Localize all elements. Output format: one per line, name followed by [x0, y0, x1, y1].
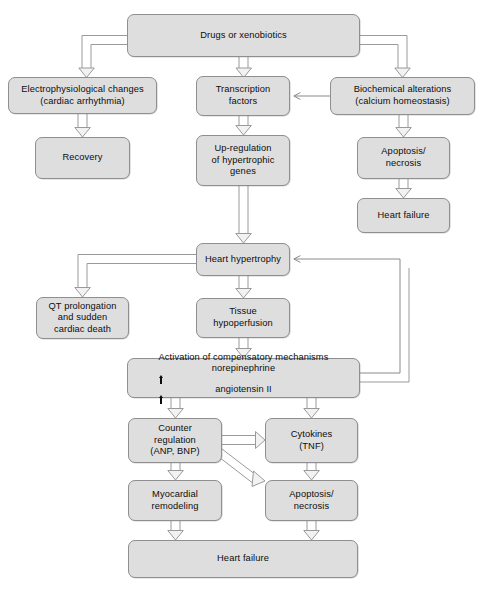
node-label-line2: necrosis — [377, 158, 429, 170]
activation-label-norepinephrine: norepinephrine — [159, 363, 329, 375]
node-label-line2: factors — [212, 96, 275, 108]
node-label-line1: Electrophysiological changes — [17, 84, 148, 96]
flowchart-canvas: Drugs or xenobiotics Electrophysiologica… — [0, 0, 489, 592]
node-label-line3: (ANP, BNP) — [146, 446, 203, 458]
node-label: Heart hypertrophy — [201, 254, 285, 266]
node-label-line2: hypoperfusion — [209, 318, 277, 330]
connector-electrophysiological-to-recovery — [75, 114, 91, 137]
connector-counter-to-myocardial — [168, 463, 184, 480]
node-label-line1: Cytokines — [287, 429, 337, 441]
node-label-line1: Activation of compensatory mechanisms — [155, 352, 333, 364]
node-transcription-factors[interactable]: Transcription factors — [196, 76, 290, 116]
node-apoptosis-necrosis-top[interactable]: Apoptosis/ necrosis — [357, 137, 450, 179]
node-label-line3: genes — [208, 166, 279, 178]
connector-drugs-to-biochemical — [360, 36, 410, 78]
connector-biochemical-to-apoptosis — [396, 115, 412, 137]
node-label: Recovery — [58, 152, 106, 164]
node-label: Heart failure — [374, 210, 434, 222]
node-label-line2: necrosis — [285, 501, 337, 513]
increase-arrow-icon — [159, 375, 172, 384]
connector-counter-to-cytokines — [222, 432, 265, 449]
node-label-line1: Transcription — [212, 84, 275, 96]
node-label-line2: of hypertrophic — [208, 155, 279, 167]
node-label-line2: (TNF) — [287, 441, 337, 453]
node-label-line1: QT prolongation — [45, 301, 121, 313]
node-label-line2: and sudden — [45, 312, 121, 324]
increase-arrow-icon — [159, 395, 172, 404]
node-label-line1: Myocardial — [148, 489, 203, 501]
node-label-line1: Tissue — [209, 306, 277, 318]
node-label-line2: regulation — [146, 435, 203, 447]
node-heart-failure-top[interactable]: Heart failure — [357, 198, 450, 233]
node-label-line2: remodeling — [148, 501, 203, 513]
node-qt-prolongation-sudden-cardiac-death[interactable]: QT prolongation and sudden cardiac death — [36, 297, 129, 339]
node-label-line1: Counter — [146, 423, 203, 435]
node-label-line2: (cardiac arrhythmia) — [17, 96, 148, 108]
connector-hypertrophy-to-tissue — [236, 276, 252, 298]
node-label-line3: cardiac death — [45, 324, 121, 336]
activation-label-angiotensin: angiotensin II — [159, 384, 329, 396]
connector-upregulation-to-hypertrophy — [236, 186, 252, 243]
node-label-line1: Up-regulation — [208, 143, 279, 155]
node-myocardial-remodeling[interactable]: Myocardial remodeling — [128, 480, 222, 521]
connector-cytokines-to-apoptosis — [304, 463, 320, 480]
node-up-regulation-of-hypertrophic-genes[interactable]: Up-regulation of hypertrophic genes — [196, 135, 290, 186]
connector-apoptosis-bottom-to-heartfailure — [304, 521, 320, 540]
node-label-line1: Biochemical alterations — [350, 84, 456, 96]
node-label-line1: Apoptosis/ — [285, 489, 337, 501]
node-counter-regulation[interactable]: Counter regulation (ANP, BNP) — [128, 418, 222, 463]
node-recovery[interactable]: Recovery — [35, 137, 130, 179]
node-heart-failure-bottom[interactable]: Heart failure — [128, 540, 358, 578]
connector-hypertrophy-to-qt — [75, 255, 196, 298]
connector-drugs-to-transcription — [236, 57, 252, 78]
connector-apoptosis-to-heartfailure-top — [396, 179, 412, 198]
connector-counter-to-apoptosis — [217, 449, 265, 487]
node-label-line1: Apoptosis/ — [377, 146, 429, 158]
node-electrophysiological-changes[interactable]: Electrophysiological changes (cardiac ar… — [8, 77, 157, 114]
node-heart-hypertrophy[interactable]: Heart hypertrophy — [196, 243, 290, 276]
node-cytokines[interactable]: Cytokines (TNF) — [265, 418, 358, 463]
node-tissue-hypoperfusion[interactable]: Tissue hypoperfusion — [196, 298, 290, 338]
node-apoptosis-necrosis-bottom[interactable]: Apoptosis/ necrosis — [265, 480, 358, 521]
node-drugs-or-xenobiotics[interactable]: Drugs or xenobiotics — [127, 14, 360, 57]
node-label: Drugs or xenobiotics — [196, 30, 291, 42]
node-label-line2: (calcium homeostasis) — [350, 96, 456, 108]
node-label-line2: norepinephrine angiotensin II — [155, 363, 333, 404]
node-label: Heart failure — [213, 553, 273, 565]
node-activation-of-compensatory-mechanisms[interactable]: Activation of compensatory mechanisms no… — [127, 358, 360, 398]
connector-drugs-to-electrophysiological — [79, 36, 127, 78]
connector-myocardial-to-heartfailure — [168, 521, 184, 540]
connector-transcription-to-upregulation — [236, 116, 252, 135]
node-biochemical-alterations[interactable]: Biochemical alterations (calcium homeost… — [330, 77, 475, 115]
